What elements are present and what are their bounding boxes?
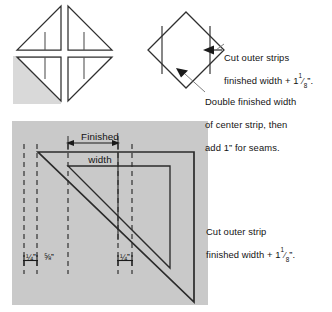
fraction-one-eighth-b: 1⁄8 (281, 251, 290, 260)
pinwheel-unit-top-left (17, 6, 61, 50)
callout-double-width-line3: add 1” for seams. (205, 142, 280, 153)
label-finished-width: Finished width (60, 119, 140, 165)
pinwheel-unit-bottom-right (68, 57, 112, 101)
callout-double-finished-width: Double finished width of center strip, t… (205, 85, 296, 153)
label-finished-width-line2: width (88, 154, 111, 165)
measure-label-seam-left: ¼” (26, 252, 36, 263)
callout-cut-outer-strips: Cut outer strips finished width + 11⁄8”. (224, 41, 313, 88)
measure-label-middle: ⅝” (44, 252, 54, 263)
fraction-denominator-a: 8 (304, 82, 308, 89)
callout-cut-outer-strip-line2-prefix: finished width + 1 (206, 249, 281, 260)
callout-cut-outer-strips-line2-suffix: ”. (307, 75, 313, 86)
measure-label-seam-right: ¼” (120, 252, 130, 263)
label-finished-width-line1: Finished (81, 131, 119, 142)
callout-cut-outer-strip: Cut outer strip finished width + 11⁄8”. (206, 215, 295, 262)
callout-cut-outer-strips-line1: Cut outer strips (224, 52, 289, 63)
fraction-denominator-b: 8 (286, 256, 290, 263)
pinwheel-unit-top-right (68, 6, 112, 50)
callout-double-width-line2: of center strip, then (205, 119, 287, 130)
fraction-one-eighth-a: 1⁄8 (299, 77, 308, 86)
fraction-numerator-b: 1 (281, 246, 285, 253)
callout-cut-outer-strip-line1: Cut outer strip (206, 226, 266, 237)
pinwheel-block (13, 6, 112, 104)
figure-canvas: Cut outer strips finished width + 11⁄8”.… (0, 0, 332, 312)
callout-cut-outer-strip-line2-suffix: ”. (289, 249, 295, 260)
callout-double-width-line1: Double finished width (205, 96, 296, 107)
fraction-numerator-a: 1 (299, 72, 303, 79)
